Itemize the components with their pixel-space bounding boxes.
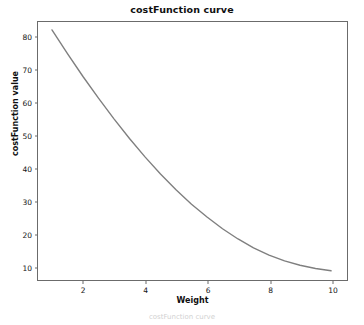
x-tick-mark [145, 280, 146, 284]
y-tick-mark [35, 235, 39, 236]
x-tick-mark [332, 280, 333, 284]
y-tick-mark [35, 102, 39, 103]
x-axis-label: Weight [37, 296, 348, 305]
y-tick-mark [35, 168, 39, 169]
figure-caption-faint: costFunction curve [0, 312, 364, 322]
plot-area: 1020304050607080246810 [37, 21, 348, 281]
cost-function-curve [38, 22, 347, 280]
y-tick-mark [35, 201, 39, 202]
y-tick-mark [35, 69, 39, 70]
x-tick-mark [270, 280, 271, 284]
y-tick-mark [35, 268, 39, 269]
y-tick-mark [35, 36, 39, 37]
x-tick-mark [83, 280, 84, 284]
y-axis-label: costFunction value [11, 44, 20, 184]
x-tick-mark [208, 280, 209, 284]
chart-title: costFunction curve [0, 4, 364, 15]
chart-figure: costFunction curve 102030405060708024681… [0, 0, 364, 325]
y-tick-mark [35, 135, 39, 136]
